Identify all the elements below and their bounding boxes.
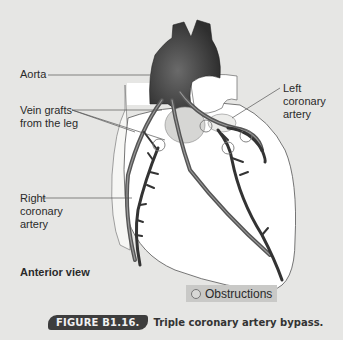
label-vein-grafts-line1: Vein grafts <box>20 104 78 117</box>
label-aorta: Aorta <box>20 68 46 81</box>
figure-caption: FIGURE B1.16. Triple coronary artery byp… <box>48 315 323 330</box>
legend: Obstructions <box>186 285 277 302</box>
legend-label: Obstructions <box>205 287 272 301</box>
label-vein-grafts: Vein grafts from the leg <box>20 104 78 130</box>
label-right-coronary-line1: Right <box>20 192 63 205</box>
view-label: Anterior view <box>20 266 90 278</box>
label-aorta-text: Aorta <box>20 68 46 80</box>
label-vein-grafts-line2: from the leg <box>20 117 78 130</box>
circle-outline-icon <box>191 289 201 299</box>
heart-illustration <box>0 0 343 340</box>
figure-title: Triple coronary artery bypass. <box>154 317 324 328</box>
label-left-coronary-line1: Left <box>283 82 326 95</box>
label-left-coronary-line2: coronary <box>283 95 326 108</box>
figure-number-badge: FIGURE B1.16. <box>48 315 148 330</box>
label-right-coronary-line2: coronary <box>20 205 63 218</box>
label-right-coronary-artery: Right coronary artery <box>20 192 63 231</box>
label-left-coronary-line3: artery <box>283 108 326 121</box>
label-right-coronary-line3: artery <box>20 218 63 231</box>
label-left-coronary-artery: Left coronary artery <box>283 82 326 121</box>
